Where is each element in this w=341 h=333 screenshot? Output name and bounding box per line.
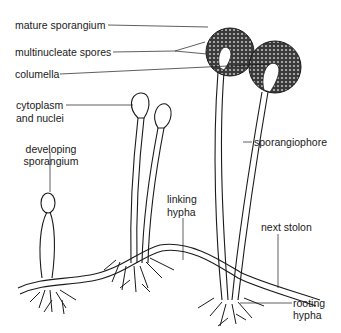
label-next-stolon: next stolon	[261, 221, 312, 233]
young-stalk-2	[142, 128, 164, 263]
label-developing-line2: sporangium	[20, 155, 82, 167]
label-mature-sporangium: mature sporangium	[15, 19, 105, 31]
label-columella: columella	[15, 68, 59, 80]
label-cytoplasm-line2: and nuclei	[16, 112, 64, 124]
developing-stalk	[40, 212, 55, 278]
young-stalk-1	[131, 118, 144, 263]
label-rooting-line2: hypha	[293, 309, 322, 321]
label-linking-line1: linking	[167, 193, 197, 205]
label-rooting-line1: rooting	[293, 297, 325, 309]
label-developing-line1: developing	[23, 143, 79, 155]
label-linking-line2: hypha	[167, 206, 196, 218]
label-sporangiophore: sporangiophore	[254, 136, 327, 148]
label-multinucleate-spores: multinucleate spores	[15, 46, 111, 58]
rhizoids	[30, 258, 292, 326]
young-head-2	[155, 104, 171, 128]
multinucleate-leader-b	[175, 42, 205, 51]
multinucleate-leader-a	[113, 51, 175, 52]
developing-sporangium	[41, 193, 55, 213]
young-head-1	[131, 93, 149, 118]
mature-stalk-2	[232, 92, 268, 300]
mature-sporangium-leader	[108, 25, 208, 27]
multinucleate-leader-c	[175, 51, 207, 54]
label-cytoplasm-line1: cytoplasm	[16, 99, 63, 111]
